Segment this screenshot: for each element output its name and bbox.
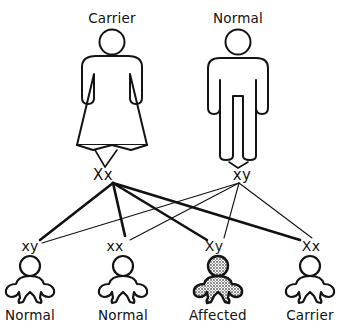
child-3-head [208, 256, 228, 276]
link-mother-child-2 [113, 183, 125, 236]
child-1-title-label: Normal [5, 309, 55, 323]
child-3-body [194, 276, 242, 303]
mother-skirt-hem [77, 145, 147, 150]
child-3-genotype-label: Xy [205, 239, 223, 253]
link-father-child-3 [224, 183, 239, 238]
father-inheritance-links [42, 183, 312, 243]
child-2-body [99, 276, 147, 303]
father-body [208, 58, 268, 160]
link-mother-child-4 [113, 183, 300, 240]
mother-genotype-label: Xx [93, 168, 113, 183]
mother-title-label: Carrier [88, 12, 136, 26]
child-2-figure [99, 256, 147, 303]
child-1-head [20, 256, 40, 276]
child-2-head [113, 256, 133, 276]
child-3-title-label: Affected [189, 309, 247, 323]
father-genotype-label: xy [233, 168, 251, 183]
mother-head [100, 30, 125, 55]
child-4-head [300, 256, 320, 276]
child-3-figure [194, 256, 242, 303]
mother-body [77, 56, 147, 145]
father-title-label: Normal [213, 12, 263, 26]
child-4-title-label: Carrier [286, 309, 334, 323]
father-head [226, 30, 251, 55]
child-1-body [6, 276, 54, 303]
child-2-genotype-label: xx [106, 239, 123, 253]
link-mother-child-1 [40, 183, 113, 240]
child-1-figure [6, 256, 54, 303]
child-4-genotype-label: Xx [302, 239, 320, 253]
child-4-body [286, 276, 334, 303]
link-mother-child-3 [113, 183, 207, 240]
mother-gamete-line [95, 150, 117, 167]
child-1-genotype-label: xy [21, 239, 38, 253]
mother-figure [77, 30, 147, 151]
child-4-figure [286, 256, 334, 303]
father-figure [208, 30, 268, 161]
link-father-child-4 [239, 183, 312, 238]
pedigree-diagram: Carrier Normal Xx xy xy xx Xy Xx Normal … [0, 0, 347, 334]
child-2-title-label: Normal [98, 309, 148, 323]
pedigree-canvas [0, 0, 347, 334]
